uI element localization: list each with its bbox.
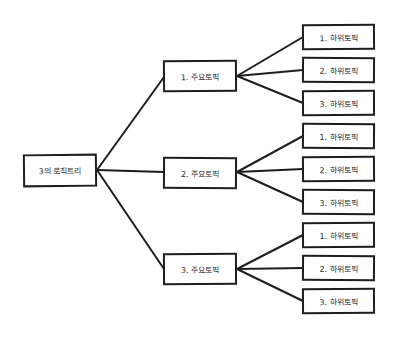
edge-root-topic3	[97, 170, 164, 269]
topic-node-label: 3. 주요토픽	[181, 263, 219, 274]
subtopic-node-label: 2. 하위토픽	[319, 64, 357, 75]
root-node-label: 3의 로직트리	[39, 165, 82, 176]
subtopic-node-label: 2. 하위토픽	[319, 163, 357, 174]
root-node: 3의 로직트리	[23, 154, 97, 188]
subtopic-node-3-1: 1. 하위토픽	[302, 222, 375, 248]
topic-node-2: 2. 주요토픽	[163, 157, 237, 189]
subtopic-node-2-1: 1. 하위토픽	[302, 123, 375, 150]
subtopic-node-label: 1. 하위토픽	[319, 31, 357, 42]
subtopic-node-label: 3. 하위토픽	[319, 196, 357, 207]
edge-topic2-sub2	[237, 169, 303, 172]
subtopic-node-2-3: 3. 하위토픽	[302, 189, 375, 215]
subtopic-node-3-3: 3. 하위토픽	[302, 288, 375, 315]
edge-root-topic1	[97, 77, 164, 170]
subtopic-node-1-1: 1. 하위토픽	[302, 24, 375, 51]
subtopic-node-1-2: 2. 하위토픽	[302, 57, 375, 84]
edge-topic1-sub3	[237, 76, 303, 103]
edge-topic2-sub3	[237, 172, 303, 202]
topic-node-3: 3. 주요토픽	[163, 253, 237, 285]
subtopic-node-label: 3. 하위토픽	[319, 97, 357, 108]
edge-root-topic2	[97, 170, 164, 172]
subtopic-node-label: 3. 하위토픽	[319, 295, 357, 306]
subtopic-node-label: 1. 하위토픽	[319, 130, 357, 141]
edge-topic3-sub1	[237, 235, 303, 269]
subtopic-node-3-2: 2. 하위토픽	[302, 255, 375, 282]
topic-node-1: 1. 주요토픽	[163, 60, 237, 93]
topic-node-label: 1. 주요토픽	[181, 70, 219, 81]
subtopic-node-label: 1. 하위토픽	[319, 229, 357, 240]
topic-node-label: 2. 주요토픽	[181, 167, 219, 178]
edge-topic3-sub3	[237, 269, 303, 301]
edge-topic3-sub2	[237, 268, 303, 269]
edge-topic2-sub1	[237, 136, 303, 172]
subtopic-node-label: 2. 하위토픽	[319, 262, 357, 273]
subtopic-node-1-3: 3. 하위토픽	[302, 90, 375, 116]
subtopic-node-2-2: 2. 하위토픽	[302, 156, 375, 183]
